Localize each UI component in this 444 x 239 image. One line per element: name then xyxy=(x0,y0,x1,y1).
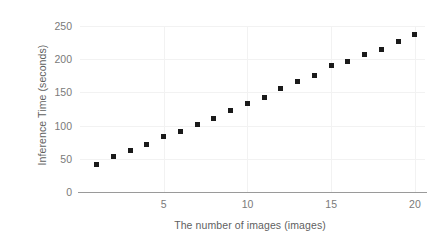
gridline-horizontal xyxy=(80,92,425,93)
data-point xyxy=(396,39,401,44)
gridline-vertical xyxy=(331,26,332,192)
gridline-vertical xyxy=(164,26,165,192)
gridline-vertical xyxy=(247,26,248,192)
data-point xyxy=(144,142,149,147)
y-axis-tick-label: 50 xyxy=(38,153,72,165)
data-point xyxy=(295,79,300,84)
data-point xyxy=(228,108,233,113)
plot-area xyxy=(80,26,425,192)
y-axis-tick-label: 100 xyxy=(38,120,72,132)
x-axis-tick-label: 10 xyxy=(232,198,262,210)
data-point xyxy=(245,101,250,106)
data-point xyxy=(161,134,166,139)
x-axis-tick-label: 15 xyxy=(316,198,346,210)
y-axis-tick-label: 0 xyxy=(38,186,72,198)
data-point xyxy=(178,129,183,134)
y-axis-tick-label: 150 xyxy=(38,86,72,98)
gridline-horizontal xyxy=(80,159,425,160)
data-point xyxy=(312,73,317,78)
data-point xyxy=(211,116,216,121)
data-point xyxy=(128,148,133,153)
data-point xyxy=(412,32,417,37)
gridline-horizontal xyxy=(80,126,425,127)
data-point xyxy=(345,59,350,64)
data-point xyxy=(111,154,116,159)
gridline-horizontal xyxy=(80,59,425,60)
data-point xyxy=(278,86,283,91)
data-point xyxy=(262,95,267,100)
x-axis-line xyxy=(78,192,427,193)
x-axis-tick-label: 5 xyxy=(149,198,179,210)
data-point xyxy=(195,122,200,127)
data-point xyxy=(94,162,99,167)
data-point xyxy=(329,63,334,68)
y-axis-tick-label: 200 xyxy=(38,53,72,65)
x-axis-title: The number of images (images) xyxy=(70,219,430,231)
gridline-horizontal xyxy=(80,26,425,27)
gridline-vertical xyxy=(415,26,416,192)
scatter-chart: Inference Time (seconds) The number of i… xyxy=(0,0,444,239)
x-axis-tick-label: 20 xyxy=(400,198,430,210)
data-point xyxy=(379,47,384,52)
y-axis-title: Inference Time (seconds) xyxy=(34,5,50,205)
data-point xyxy=(362,52,367,57)
y-axis-tick-label: 250 xyxy=(38,20,72,32)
